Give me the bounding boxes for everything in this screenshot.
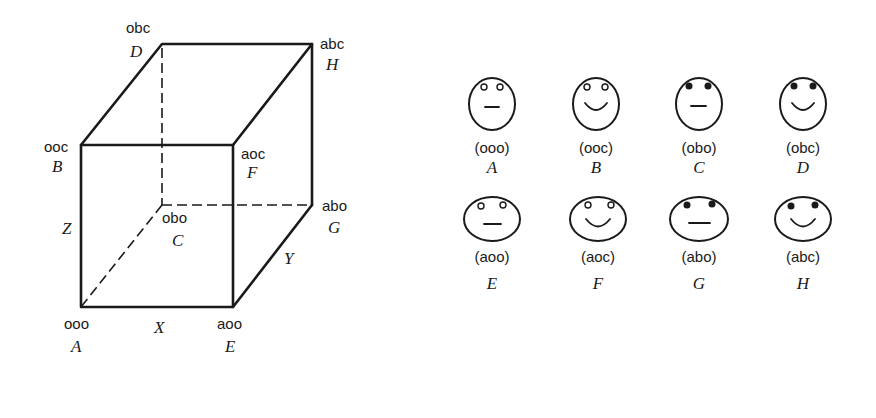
face-code-F: (aoc): [581, 248, 615, 265]
eye-open-icon: [602, 84, 608, 90]
vertex-label-C: C: [172, 231, 184, 250]
eye-filled-icon: [686, 83, 693, 90]
vertex-code-C: obo: [162, 209, 187, 226]
face-label-E: E: [486, 274, 498, 293]
face-grid: (ooo) A (ooc) B (obo) C (obc) D: [464, 78, 831, 293]
eye-open-icon: [481, 84, 487, 90]
vertex-label-H: H: [325, 55, 340, 74]
face-outline: [464, 197, 520, 241]
vertex-code-F: aoc: [241, 145, 266, 162]
vertex-label-F: F: [246, 163, 258, 182]
face-label-G: G: [693, 274, 705, 293]
mouth-smile-icon: [791, 219, 815, 227]
face-F: [570, 197, 626, 241]
vertex-label-B: B: [52, 157, 63, 176]
face-label-C: C: [693, 158, 705, 177]
vertex-code-E: aoo: [217, 315, 242, 332]
face-code-A: (ooo): [474, 139, 509, 156]
vertex-code-G: abo: [322, 197, 347, 214]
face-code-C: (obo): [681, 139, 716, 156]
vertex-label-G: G: [328, 218, 340, 237]
edge-C-A: [81, 205, 162, 307]
face-outline: [570, 197, 626, 241]
face-code-E: (aoo): [474, 248, 509, 265]
face-C: [676, 78, 722, 130]
eye-open-icon: [585, 202, 591, 208]
eye-filled-icon: [709, 201, 716, 208]
face-G: [670, 197, 728, 241]
vertex-label-E: E: [224, 337, 236, 356]
mouth-smile-icon: [792, 103, 814, 110]
eye-open-icon: [478, 203, 484, 209]
eye-open-icon: [608, 202, 614, 208]
face-code-D: (obc): [786, 139, 820, 156]
face-outline: [670, 197, 728, 241]
face-label-H: H: [796, 274, 811, 293]
face-E: [464, 197, 520, 241]
eye-filled-icon: [812, 202, 819, 209]
axis-label-y: Y: [284, 249, 295, 268]
face-outline: [780, 78, 826, 130]
vertex-label-D: D: [129, 42, 143, 61]
face-label-B: B: [591, 158, 602, 177]
face-outline: [775, 197, 831, 241]
face-outline: [469, 78, 515, 130]
top-face: [81, 44, 312, 145]
eye-filled-icon: [705, 83, 712, 90]
axis-label-x: X: [153, 318, 165, 337]
mouth-smile-icon: [585, 103, 607, 110]
vertex-code-B: ooc: [44, 138, 69, 155]
face-A: [469, 78, 515, 130]
face-label-F: F: [592, 274, 604, 293]
vertex-code-D: obc: [126, 19, 151, 36]
face-D: [780, 78, 826, 130]
edge-G-E: [233, 205, 312, 307]
face-H: [775, 197, 831, 241]
eye-filled-icon: [684, 202, 691, 209]
diagram-canvas: obc D abc H ooc B aoc F obo C abo G ooo …: [0, 0, 876, 418]
face-code-G: (abo): [681, 248, 716, 265]
face-code-B: (ooc): [579, 139, 613, 156]
eye-open-icon: [497, 84, 503, 90]
face-code-H: (abc): [786, 248, 820, 265]
eye-open-icon: [584, 84, 590, 90]
face-outline: [676, 78, 722, 130]
face-label-D: D: [796, 158, 810, 177]
front-face: [81, 145, 233, 307]
vertex-code-H: abc: [320, 35, 345, 52]
face-label-A: A: [486, 158, 498, 177]
eye-filled-icon: [788, 203, 795, 210]
face-outline: [573, 78, 619, 130]
vertex-code-A: ooo: [64, 315, 89, 332]
face-B: [573, 78, 619, 130]
eye-filled-icon: [791, 83, 798, 90]
vertex-label-A: A: [70, 337, 82, 356]
eye-filled-icon: [810, 83, 817, 90]
eye-open-icon: [500, 202, 506, 208]
axis-label-z: Z: [62, 219, 72, 238]
mouth-smile-icon: [586, 219, 610, 227]
cube-diagram: obc D abc H ooc B aoc F obo C abo G ooo …: [44, 19, 347, 356]
